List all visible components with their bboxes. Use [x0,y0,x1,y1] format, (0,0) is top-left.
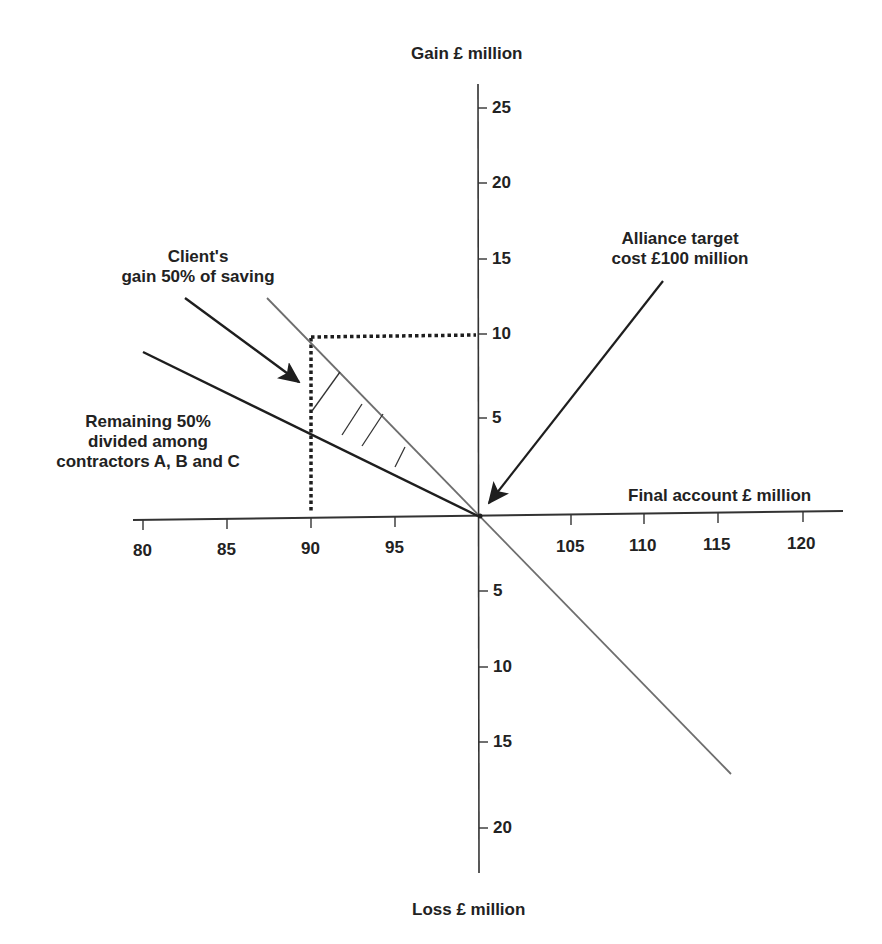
y-axis [478,84,479,873]
y-tick-label: 15 [492,249,511,269]
client-gain-line2: gain 50% of saving [78,267,318,287]
y-tick-label: 10 [492,324,511,344]
y-ticks-loss [479,591,488,828]
client-total-line [267,298,731,774]
x-axis [133,511,843,520]
dotted-line-gain10 [311,335,476,337]
client-gain-arrow [185,298,299,382]
target-cost-arrow [489,281,663,503]
x-tick-label: 85 [217,540,236,560]
y-axis-label-loss: Loss £ million [412,900,525,920]
remaining-line1: Remaining 50% [38,412,258,432]
x-tick-label: 90 [301,539,320,559]
y-tick-label: 25 [492,98,511,118]
target-cost-annotation: Alliance target cost £100 million [560,229,800,269]
x-tick-label: 105 [556,537,584,557]
x-tick-label: 95 [385,538,404,558]
x-tick-label: 115 [703,535,730,555]
target-line1: Alliance target [560,229,800,249]
x-tick-label: 110 [629,536,656,556]
y-tick-label: 10 [493,657,512,677]
origin-point [478,514,483,519]
client-gain-annotation: Client's gain 50% of saving [78,247,318,287]
y-tick-label: 5 [493,581,502,601]
y-ticks-gain [478,108,487,418]
x-tick-label: 120 [787,534,815,554]
remaining-share-annotation: Remaining 50% divided among contractors … [38,412,258,472]
remaining-line3: contractors A, B and C [38,452,258,472]
x-axis-label: Final account £ million [628,486,811,506]
y-tick-label: 5 [492,408,501,428]
x-tick-label: 80 [133,541,152,561]
client-gain-line1: Client's [78,247,318,267]
target-line2: cost £100 million [560,249,800,269]
remaining-line2: divided among [38,432,258,452]
alliance-gain-loss-chart [0,0,882,944]
hatched-contractor-share [312,372,405,467]
y-axis-label-gain: Gain £ million [411,44,522,64]
y-tick-label: 20 [492,173,511,193]
y-tick-label: 20 [493,818,512,838]
y-tick-label: 15 [493,732,512,752]
